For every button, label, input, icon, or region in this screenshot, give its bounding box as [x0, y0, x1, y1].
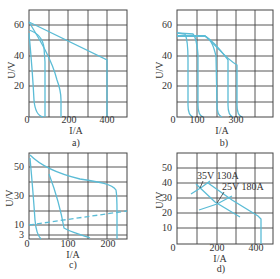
chart-b-curve-2 [177, 33, 203, 117]
chart-a-frame [29, 10, 127, 117]
chart-d-ytick-50: 50 [162, 162, 172, 173]
chart-b-ytick-60: 60 [162, 19, 172, 30]
chart-b: 60 40 20 0 100 300 U/V I/A b) [154, 10, 273, 149]
chart-a-curve-2 [29, 30, 45, 117]
chart-b-xtick-300: 300 [229, 114, 244, 125]
chart-b-curve-5 [177, 36, 242, 117]
chart-c-xtick-0: 0 [25, 238, 30, 249]
chart-d-ylabel: U/V [154, 191, 165, 209]
chart-d-xtick-0: 0 [171, 242, 176, 253]
chart-c-ytick-3: 3 [19, 229, 24, 240]
chart-c-curve-2 [30, 155, 117, 239]
chart-d: 35V 130A 25V 180A 50 40 30 20 10 0 200 4… [154, 153, 273, 275]
chart-c-ytick-30: 30 [14, 190, 24, 201]
chart-a: 60 40 20 0 200 400 U/V I/A a) [6, 10, 127, 149]
chart-a-xtick-400: 400 [100, 114, 115, 125]
chart-d-frame [177, 153, 273, 244]
chart-d-ytick-40: 40 [162, 177, 172, 188]
chart-b-ylabel: U/V [154, 61, 165, 79]
chart-a-caption: a) [72, 137, 80, 149]
chart-a-grid [29, 10, 127, 117]
chart-a-curve-1 [29, 33, 43, 117]
chart-c-ylabel: U/V [4, 189, 15, 207]
chart-d-xtick-400: 400 [249, 242, 264, 253]
chart-d-caption: d) [217, 263, 225, 275]
chart-a-xlabel: I/A [69, 125, 83, 136]
chart-d-annotation-35v: 35V 130A [197, 170, 240, 181]
chart-b-xtick-0: 0 [171, 114, 176, 125]
chart-a-ytick-60: 60 [14, 19, 24, 30]
chart-b-ytick-20: 20 [162, 80, 172, 91]
chart-d-ytick-10: 10 [162, 222, 172, 233]
chart-b-grid [177, 10, 273, 117]
chart-c-xtick-100: 100 [61, 238, 76, 249]
chart-a-ytick-20: 20 [14, 80, 24, 91]
chart-c-curve-3 [49, 174, 90, 238]
chart-b-xlabel: I/A [215, 125, 229, 136]
chart-b-caption: b) [220, 137, 228, 149]
chart-a-ylabel: U/V [6, 61, 17, 79]
chart-c-curve-1 [30, 158, 41, 239]
chart-b-frame [177, 10, 273, 117]
chart-a-xtick-200: 200 [62, 114, 77, 125]
chart-a-xtick-0: 0 [25, 114, 30, 125]
chart-d-grid [177, 153, 273, 244]
chart-d-annotation-25v: 25V 180A [222, 181, 265, 192]
chart-c: 50 30 10 3 0 100 200 U/V I/A c) [4, 153, 127, 271]
chart-c-caption: c) [69, 259, 77, 271]
chart-c-load-line [29, 211, 127, 225]
figure: 60 40 20 0 200 400 U/V I/A a) 60 40 [0, 0, 280, 279]
chart-b-xtick-100: 100 [190, 114, 205, 125]
chart-b-curve-3 [177, 36, 222, 117]
chart-b-ytick-40: 40 [162, 50, 172, 61]
chart-b-curve-1 [177, 33, 193, 117]
chart-c-ytick-50: 50 [14, 161, 24, 172]
chart-d-xtick-200: 200 [210, 242, 225, 253]
chart-a-ytick-40: 40 [14, 50, 24, 61]
chart-c-xtick-200: 200 [101, 238, 116, 249]
chart-b-curve-4 [177, 36, 233, 117]
